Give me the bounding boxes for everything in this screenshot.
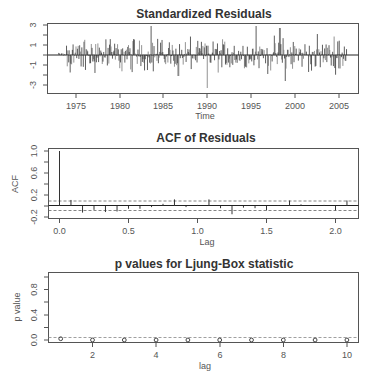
x-tick-label: 6 — [217, 350, 222, 360]
y-tick-label: 0.6 — [29, 167, 39, 180]
x-tick-label: 1985 — [153, 101, 173, 111]
acf-x-axis — [60, 219, 336, 224]
y-tick-label: -3 — [28, 81, 38, 89]
y-tick-label: 3 — [28, 22, 38, 27]
x-tick-label: 2 — [90, 350, 95, 360]
p-value-point — [345, 338, 349, 342]
x-tick-label: 4 — [153, 350, 158, 360]
ljung-box-x-axis — [93, 343, 348, 348]
residuals-y-axis — [43, 25, 48, 85]
x-tick-label: 0.5 — [122, 226, 135, 236]
x-tick-label: 1.0 — [191, 226, 204, 236]
acf-frame — [49, 149, 359, 219]
x-tick-label: 0.0 — [53, 226, 66, 236]
ljung-box-y-axis — [44, 277, 49, 340]
x-tick-label: 8 — [281, 350, 286, 360]
p-value-point — [186, 338, 190, 342]
x-tick-label: 2.0 — [329, 226, 342, 236]
acf-title: ACF of Residuals — [156, 131, 256, 145]
x-tick-label: 1990 — [197, 101, 217, 111]
residuals-bars — [59, 26, 347, 88]
ljung-box-x-label: lag — [199, 361, 211, 371]
y-tick-label: -0.2 — [29, 209, 39, 225]
ljung-box-y-label: p value — [12, 292, 22, 321]
x-tick-label: 1980 — [110, 101, 130, 111]
x-tick-label: 2005 — [329, 101, 349, 111]
acf-y-label: ACF — [10, 174, 20, 193]
x-tick-label: 1975 — [66, 101, 86, 111]
p-value-point — [250, 338, 254, 342]
ljung-box-panel: p values for Ljung-Box statistic 0.8 0.4… — [12, 257, 359, 371]
x-tick-label: 10 — [342, 350, 352, 360]
p-value-point — [218, 338, 222, 342]
y-tick-label: 0.8 — [29, 283, 39, 296]
y-tick-label: 0.4 — [29, 309, 39, 322]
residuals-x-label: Time — [195, 111, 215, 121]
tsdiag-figure: Standardized Residuals 3 1 -1 -3 1975 — [0, 0, 369, 383]
x-tick-label: 2000 — [285, 101, 305, 111]
p-value-point — [281, 338, 285, 342]
p-value-point — [154, 338, 158, 342]
acf-x-label: Lag — [199, 237, 214, 247]
x-tick-label: 1995 — [241, 101, 261, 111]
y-tick-label: 1 — [28, 42, 38, 47]
ljung-box-frame — [49, 273, 359, 343]
residuals-title: Standardized Residuals — [136, 7, 272, 21]
p-value-point — [313, 338, 317, 342]
y-tick-label: 1.0 — [29, 145, 39, 158]
p-value-point — [91, 338, 95, 342]
acf-y-axis — [44, 151, 49, 217]
y-tick-label: 0.0 — [29, 334, 39, 347]
ljung-box-title: p values for Ljung-Box statistic — [115, 257, 294, 271]
p-value-point — [122, 338, 126, 342]
residuals-panel: Standardized Residuals 3 1 -1 -3 1975 — [28, 7, 359, 121]
acf-bars — [60, 151, 347, 214]
y-tick-label: -1 — [28, 61, 38, 69]
x-tick-label: 1.5 — [260, 226, 273, 236]
residuals-x-axis — [76, 94, 339, 99]
acf-panel: ACF of Residuals 1.0 0.6 0.2 -0.2 ACF 0.… — [10, 131, 359, 247]
y-tick-label: 0.2 — [29, 189, 39, 202]
